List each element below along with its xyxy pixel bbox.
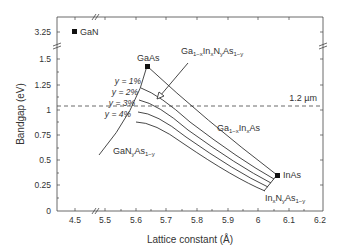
label-inas: InAs: [283, 170, 302, 180]
y-tick-label: 3.25: [34, 27, 51, 37]
y-tick-label: 0.25: [34, 180, 51, 190]
x-tick-label: 5.9: [222, 215, 234, 225]
x-tick-labels: 4.5 5.5 5.6 5.7 5.8 5.9 6 6.1 6.2: [69, 215, 326, 225]
bandgap-chart: 4.5 5.5 5.6 5.7 5.8 5.9 6 6.1 6.2 0 0.25…: [0, 0, 344, 252]
x-tick-label: 4.5: [69, 215, 81, 225]
point-gan: [72, 29, 77, 34]
y-tick-label: 0: [46, 206, 51, 216]
x-tick-label: 6.1: [283, 215, 295, 225]
label-gan: GaN: [80, 27, 99, 37]
y-axis-label: Bandgap (eV): [15, 83, 26, 145]
label-y2: y = 2%: [111, 87, 139, 97]
y-tick-label: 1.5: [39, 54, 51, 64]
y-tick-labels: 0 0.25 0.5 0.75 1 1.25 1.5 3.25: [34, 27, 51, 216]
label-y4: y = 4%: [104, 109, 132, 119]
x-axis-label: Lattice constant (Å): [147, 233, 233, 245]
x-tick-label: 5.8: [191, 215, 203, 225]
point-gaas: [145, 64, 150, 69]
x-tick-label: 6: [256, 215, 261, 225]
curve-y1: [141, 88, 274, 179]
label-gaas: GaAs: [137, 53, 160, 63]
y-tick-label: 0.5: [39, 155, 51, 165]
y-tick-label: 1: [46, 105, 51, 115]
curve-gainas: [147, 66, 277, 175]
x-tick-label: 5.6: [130, 215, 142, 225]
label-ganas: GaNyAs1−y: [113, 146, 155, 157]
point-inas: [275, 173, 280, 178]
y-tick-label: 0.75: [34, 130, 51, 140]
x-tick-label: 6.2: [314, 215, 326, 225]
label-innas: InxNyAs1−y: [265, 193, 305, 204]
x-tick-label: 5.7: [160, 215, 172, 225]
reference-line-label: 1.2 µm: [289, 93, 317, 103]
label-gainnas: Ga1−xInxNyAs1−y: [181, 46, 243, 57]
label-gainas: Ga1−xInxAs: [217, 123, 260, 134]
y-tick-label: 1.25: [34, 80, 51, 90]
curve-y2: [139, 100, 271, 183]
axis-break-marks: [53, 14, 327, 214]
x-tick-label: 5.5: [99, 215, 111, 225]
label-y3: y = 3%: [108, 98, 136, 108]
label-y1: y = 1%: [114, 76, 142, 86]
